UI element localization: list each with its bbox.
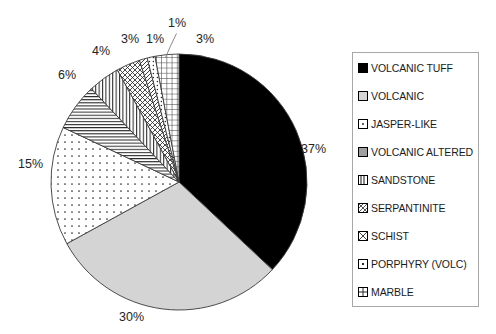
slice-label-marble: 3%: [196, 32, 214, 46]
slice-label-volcanic: 30%: [119, 310, 144, 324]
slice-label-jasper-like: 15%: [18, 157, 43, 171]
legend-label: VOLCANIC ALTERED: [371, 147, 473, 158]
legend-item-volcanic-tuff[interactable]: VOLCANIC TUFF: [358, 61, 453, 75]
pie-chart-figure: 37% 30% 15% 6% 4% 3% 1% 1% 3% VOLCANIC T…: [0, 0, 496, 334]
legend-item-marble[interactable]: MARBLE: [358, 285, 414, 299]
legend-label: VOLCANIC: [371, 91, 424, 102]
slice-label-porphyry: 1%: [168, 16, 186, 30]
legend-item-volcanic-altered[interactable]: VOLCANIC ALTERED: [358, 145, 473, 159]
legend-item-volcanic[interactable]: VOLCANIC: [358, 89, 424, 103]
legend-label: SANDSTONE: [371, 175, 435, 186]
legend-label: JASPER-LIKE: [371, 119, 437, 130]
legend-item-schist[interactable]: SCHIST: [358, 229, 409, 243]
legend-label: SERPANTINITE: [371, 203, 445, 214]
slice-label-serpantinite: 3%: [121, 32, 139, 46]
slice-label-volcanic-tuff: 37%: [301, 142, 326, 156]
swatch-solid-black-icon: [358, 63, 368, 73]
swatch-lines-vertical-icon: [358, 175, 368, 185]
swatch-dots-sparse-icon: [358, 119, 368, 129]
legend-item-jasper-like[interactable]: JASPER-LIKE: [358, 117, 437, 131]
legend-label: PORPHYRY (VOLC): [371, 259, 467, 270]
pie-slices-group: [51, 54, 307, 310]
slice-label-sandstone: 4%: [92, 44, 110, 58]
swatch-dots-fine-icon: [358, 259, 368, 269]
swatch-solid-lightgray-icon: [358, 91, 368, 101]
legend-label: VOLCANIC TUFF: [371, 63, 453, 74]
legend-item-sandstone[interactable]: SANDSTONE: [358, 173, 435, 187]
swatch-lines-horizontal-icon: [358, 147, 368, 157]
legend: VOLCANIC TUFF VOLCANIC JASPER-LIKE VOLCA…: [352, 52, 479, 307]
legend-label: MARBLE: [371, 287, 414, 298]
slice-label-schist: 1%: [146, 32, 164, 46]
swatch-cross-diagonal-icon: [358, 203, 368, 213]
legend-item-serpantinite[interactable]: SERPANTINITE: [358, 201, 445, 215]
legend-label: SCHIST: [371, 231, 409, 242]
legend-item-porphyry-volc[interactable]: PORPHYRY (VOLC): [358, 257, 467, 271]
slice-label-volcanic-altered: 6%: [58, 68, 76, 82]
swatch-lines-diagonal-icon: [358, 231, 368, 241]
swatch-grid-cross-icon: [358, 287, 368, 297]
